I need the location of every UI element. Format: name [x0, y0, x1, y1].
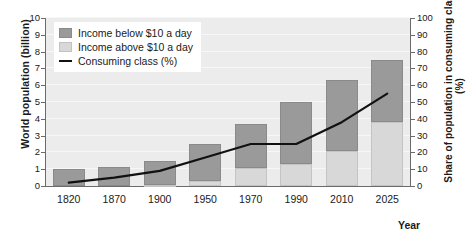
y-axis-left-tick-label: 0: [2, 181, 40, 191]
x-axis-tick-label: 1950: [180, 194, 230, 205]
y-axis-right-tick-label: 90: [417, 30, 437, 40]
chart-legend: Income below $10 a day Income above $10 …: [54, 22, 201, 72]
x-axis-tick-label: 2025: [362, 194, 412, 205]
bar-segment-below-10: [98, 167, 130, 186]
legend-swatch-icon: [59, 28, 72, 38]
y-axis-left-tick: [41, 18, 45, 19]
y-axis-left-tick: [41, 85, 45, 86]
legend-item-below-10: Income below $10 a day: [59, 26, 193, 40]
x-axis-tick-label: 1970: [226, 194, 276, 205]
y-axis-right-tick-label: 20: [417, 147, 437, 157]
bar-segment-above-10: [371, 122, 403, 186]
y-axis-right-tick: [411, 18, 415, 19]
y-axis-right-tick: [411, 68, 415, 69]
x-axis-tick-label: 1820: [44, 194, 94, 205]
x-axis-tick-label: 1870: [89, 194, 139, 205]
gridline: [46, 17, 410, 18]
y-axis-left-tick: [41, 119, 45, 120]
y-axis-right-tick-label: 40: [417, 114, 437, 124]
bar-segment-below-10: [326, 80, 358, 151]
y-axis-right-tick: [411, 169, 415, 170]
bar-segment-above-10: [235, 168, 267, 186]
bar-segment-above-10: [280, 164, 312, 186]
y-axis-right-tick-label: 100: [417, 13, 437, 23]
x-axis-title: Year: [398, 219, 420, 231]
legend-label: Income below $10 a day: [78, 28, 192, 39]
bar-segment-below-10: [189, 144, 221, 181]
y-axis-right-tick: [411, 35, 415, 36]
x-axis-tick-label: 2010: [317, 194, 367, 205]
bar-segment-above-10: [326, 151, 358, 186]
y-axis-left-tick: [41, 102, 45, 103]
y-axis-left-tick: [41, 169, 45, 170]
y-axis-right-tick: [411, 85, 415, 86]
y-axis-right-ticks: 0102030405060708090100: [417, 0, 443, 241]
bar-segment-below-10: [53, 169, 85, 186]
legend-item-consuming-class: Consuming class (%): [59, 54, 193, 68]
bar-segment-below-10: [280, 102, 312, 164]
y-axis-right-tick-label: 30: [417, 131, 437, 141]
y-axis-right-tick-label: 70: [417, 63, 437, 73]
y-axis-right-tick-label: 60: [417, 80, 437, 90]
y-axis-right-tick: [411, 102, 415, 103]
y-axis-right-tick: [411, 136, 415, 137]
y-axis-left-tick: [41, 152, 45, 153]
y-axis-right-tick-label: 10: [417, 164, 437, 174]
y-axis-right-tick: [411, 152, 415, 153]
legend-label: Consuming class (%): [78, 56, 177, 67]
bar-segment-above-10: [189, 181, 221, 186]
bar-segment-below-10: [235, 124, 267, 168]
x-axis-tick-label: 1990: [271, 194, 321, 205]
y-axis-left-tick: [41, 136, 45, 137]
y-axis-right-tick: [411, 52, 415, 53]
y-axis-left-tick: [41, 68, 45, 69]
y-axis-left-tick: [41, 52, 45, 53]
y-axis-right-tick: [411, 119, 415, 120]
y-axis-right-tick-label: 50: [417, 97, 437, 107]
legend-item-above-10: Income above $10 a day: [59, 40, 193, 54]
y-axis-left-line: [45, 18, 46, 187]
bar-segment-below-10: [371, 60, 403, 122]
x-axis-line: [45, 186, 411, 187]
y-axis-left-tick: [41, 186, 45, 187]
legend-line-icon: [59, 56, 72, 66]
y-axis-right-tick-label: 0: [417, 181, 437, 191]
chart-figure: 012345678910 0102030405060708090100 1820…: [0, 0, 471, 241]
y-axis-right-title: Share of population in consuming class (…: [443, 0, 465, 186]
legend-label: Income above $10 a day: [78, 42, 193, 53]
bar-segment-below-10: [144, 161, 176, 185]
y-axis-right-tick: [411, 186, 415, 187]
bar-segment-above-10: [144, 185, 176, 187]
x-axis-tick-label: 1900: [135, 194, 185, 205]
y-axis-right-tick-label: 80: [417, 47, 437, 57]
y-axis-left-title: World population (billion): [19, 0, 31, 169]
legend-swatch-icon: [59, 42, 72, 52]
y-axis-left-tick: [41, 35, 45, 36]
